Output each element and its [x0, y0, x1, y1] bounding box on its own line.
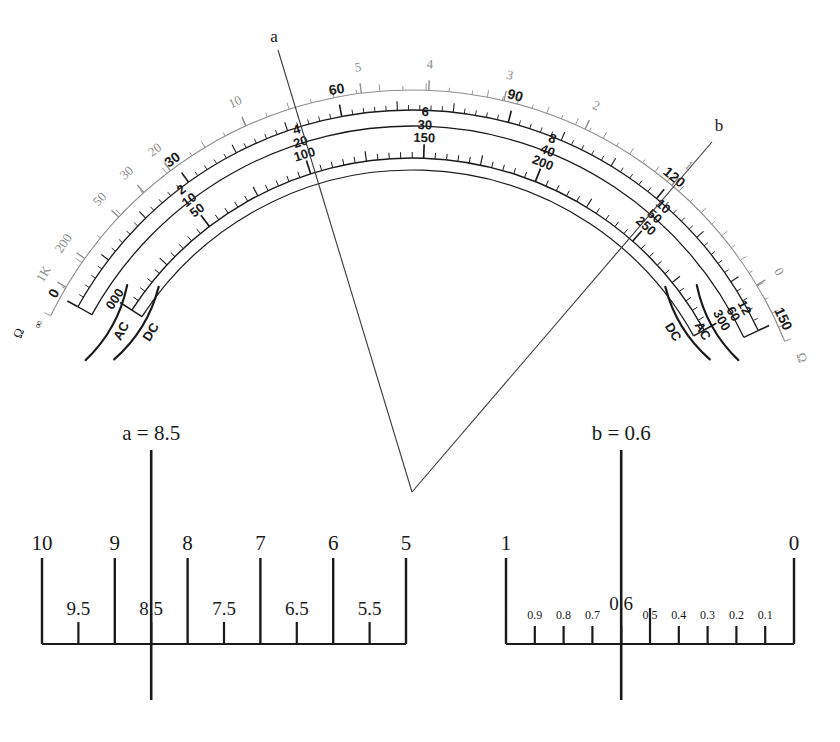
scale-tick [532, 105, 533, 109]
scale-tick [620, 168, 623, 172]
scale-tick [204, 165, 207, 169]
scale-tick [276, 180, 278, 185]
minor-tick-label-4: 0.5 [643, 608, 658, 622]
scale-tick [275, 130, 277, 135]
scale-tick [514, 168, 516, 174]
ohms-symbol-right: Ω [793, 351, 810, 365]
minor-tick-label-8: 0.1 [758, 608, 773, 622]
scale-tick [287, 103, 289, 110]
scale-tick [319, 116, 320, 121]
scale-tick [765, 298, 769, 300]
scale-tick [458, 155, 459, 161]
scale-tick [97, 235, 100, 238]
scale-tick [225, 208, 228, 213]
scale-tick [244, 143, 246, 148]
scale-tick [681, 218, 685, 222]
scale-tick [502, 96, 503, 100]
scale-tick [592, 150, 594, 154]
scale-tick [519, 121, 520, 126]
scale-tick [119, 239, 123, 242]
scale-tick [253, 187, 258, 196]
scale-tick [641, 245, 645, 249]
scale-tick [673, 210, 676, 214]
scale-tick [749, 271, 752, 273]
scale-tick [731, 277, 739, 282]
minor-tick-label-1: 0.8 [556, 608, 571, 622]
scale-tick [486, 112, 487, 117]
ohms-label-10: 1 [682, 157, 697, 173]
scale-tick [672, 276, 680, 282]
scale-tick [266, 113, 267, 117]
scale-tick [168, 192, 171, 196]
voltage-band-cap-1 [744, 331, 759, 338]
scale-tick [254, 139, 256, 144]
expanded-scale-a: 10987659.58.57.56.55.5a = 8.5 [32, 421, 412, 700]
current-band-inner-rail [142, 170, 694, 336]
scale-tick [589, 128, 591, 132]
minor-tick-label-2: 7.5 [212, 598, 236, 619]
scale-tick [503, 165, 505, 171]
range-bracket-label-right-dc: DC [662, 320, 685, 344]
scale-tick [182, 172, 189, 182]
scale-tick [377, 154, 378, 160]
pointer-label-b: b [715, 116, 724, 135]
scale-tick [711, 251, 715, 254]
scale-tick [139, 212, 145, 218]
scale-tick [547, 107, 549, 114]
scale-tick [611, 158, 616, 166]
minor-tick-label-4: 5.5 [358, 598, 382, 619]
multimeter-diagram: 1K20050203010543210Ω∞Ω030609012015000050… [0, 0, 840, 742]
scale-tick [331, 162, 332, 168]
ohms-label-0: 1K [33, 263, 54, 285]
ohms-label-8: 3 [505, 67, 515, 83]
voltage-label-0: 0 [45, 286, 63, 301]
major-tick-label-2: 8 [182, 531, 193, 555]
scale-tick [98, 266, 102, 269]
scale-tick [655, 166, 659, 172]
minor-tick-label-0: 9.5 [67, 598, 91, 619]
scale-tick [475, 110, 476, 115]
scale-tick [725, 270, 729, 273]
scale-tick [134, 223, 138, 226]
scale-tick [287, 176, 289, 182]
ohms-label-2: 50 [90, 189, 110, 209]
minor-tick-label-0: 0.9 [527, 608, 542, 622]
major-tick-label-1: 9 [110, 531, 121, 555]
scale-tick [577, 196, 580, 201]
ohms-label-5: 10 [226, 92, 244, 111]
scale-tick [133, 297, 138, 300]
ohms-symbol-left: Ω [10, 326, 28, 341]
minor-tick-label-5: 0.4 [671, 608, 686, 622]
scale-tick [697, 231, 704, 237]
scale-tick [285, 122, 288, 131]
scale-tick [197, 229, 201, 234]
scale-tick [308, 119, 309, 124]
major-tick-label-4: 6 [328, 531, 339, 555]
major-tick-label-1: 0 [789, 531, 800, 555]
scale-tick [150, 207, 153, 211]
scale-tick [692, 307, 697, 310]
scale-tick [352, 110, 353, 115]
scale-tick [160, 258, 167, 265]
scale-tick [363, 108, 364, 113]
scale-tick [190, 152, 192, 155]
scale-tick [497, 115, 498, 120]
voltage-label-5: 150 [771, 305, 795, 333]
scale-tick [85, 285, 89, 288]
scale-tick [686, 297, 691, 300]
scale-tick [689, 226, 693, 229]
voltage-band-cap-0 [78, 307, 92, 315]
scale-tick [214, 159, 217, 163]
scale-tick [546, 181, 548, 186]
scale-tick [447, 154, 448, 160]
scale-tick [320, 165, 322, 171]
voltage-label-2: 60 [327, 80, 345, 99]
minor-tick-label-2: 0.7 [585, 608, 600, 622]
scale-tick [242, 117, 246, 126]
scale-tick [630, 148, 634, 154]
scale-tick [740, 256, 746, 260]
scale-tick [245, 196, 248, 201]
scale-tick [690, 199, 693, 202]
range-bracket-label-left-dc: DC [139, 319, 162, 343]
voltage-label-1: 30 [161, 148, 183, 170]
